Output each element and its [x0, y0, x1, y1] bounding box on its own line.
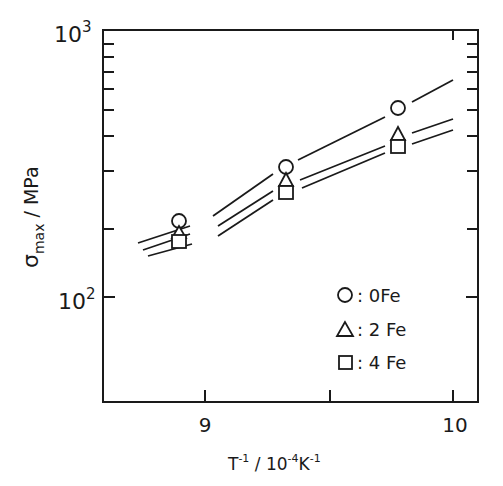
fit-line-2fe-seg4 — [412, 119, 453, 133]
fit-line-0fe-seg4 — [412, 80, 453, 102]
square-marker — [172, 235, 186, 248]
legend-item-0fe: : 0Fe — [338, 285, 401, 306]
legend-label: : 2 Fe — [357, 319, 406, 340]
triangle-icon — [337, 322, 353, 336]
markers-0fe — [172, 101, 405, 228]
markers-2fe — [172, 127, 405, 238]
square-marker — [391, 140, 405, 153]
circle-marker — [391, 101, 405, 115]
legend-label: : 0Fe — [357, 285, 401, 306]
y-axis-ticks-right — [466, 44, 478, 297]
y-axis-label: σmax / MPa — [18, 166, 47, 268]
chart-figure: 103 102 9 10 T-1 / 10-4K-1 σmax / MPa : … — [0, 0, 503, 486]
legend-label: : 4 Fe — [357, 352, 406, 373]
fit-line-4fe-seg4 — [412, 130, 453, 144]
fit-line-4fe-seg3 — [302, 153, 385, 188]
fit-lines — [138, 80, 453, 256]
fit-line-0fe-seg3 — [298, 117, 385, 160]
xtick-label-9: 9 — [199, 413, 212, 437]
triangle-marker — [391, 127, 405, 140]
markers-4fe — [172, 140, 405, 248]
circle-icon — [338, 288, 352, 302]
ytick-label-1000: 103 — [54, 18, 92, 47]
fit-line-2fe-seg3 — [300, 146, 385, 180]
ytick-label-100: 102 — [58, 285, 96, 314]
xtick-label-10: 10 — [442, 413, 467, 437]
legend-item-4fe: : 4 Fe — [339, 352, 406, 373]
square-marker — [279, 186, 293, 199]
fit-line-2fe-seg2 — [218, 191, 273, 226]
x-axis-ticks — [205, 30, 453, 402]
fit-line-4fe-seg2 — [218, 200, 273, 236]
y-axis-ticks-left — [103, 44, 115, 297]
plot-frame — [103, 30, 478, 402]
triangle-marker — [279, 173, 293, 186]
x-axis-label: T-1 / 10-4K-1 — [227, 452, 321, 474]
legend: : 0Fe : 2 Fe : 4 Fe — [337, 285, 406, 373]
legend-item-2fe: : 2 Fe — [337, 319, 406, 340]
square-icon — [339, 356, 352, 369]
